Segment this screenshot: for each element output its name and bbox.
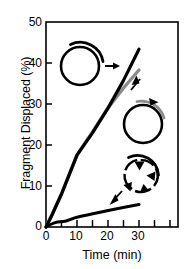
y-axis-ticks	[46, 63, 52, 186]
circle-icon	[61, 47, 99, 85]
inset-fragmented-circle	[110, 155, 159, 205]
arrow-to-fragmented-curve-icon	[110, 191, 123, 205]
arrow-right-icon	[105, 63, 120, 70]
outer-arc-icon	[129, 155, 159, 175]
x-axis-ticks	[62, 220, 171, 227]
series-nicked-circular-substrate	[46, 70, 139, 227]
plot-area	[0, 0, 190, 269]
inset-intact-circle	[61, 42, 120, 85]
series-intact-circular-substrate	[46, 49, 139, 227]
inset-nicked-circle	[124, 76, 164, 144]
chart-figure: Fragment Displaced (%) 50 40 30 20 10 0 …	[0, 0, 190, 269]
circle-icon	[124, 105, 162, 143]
